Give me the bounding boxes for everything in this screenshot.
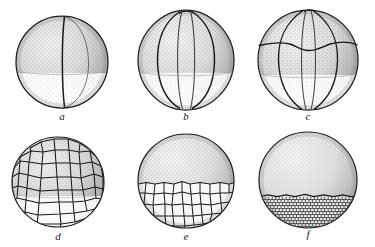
cleavage-stages-plate: a: [0, 0, 375, 247]
figure-e-blastula-coarse: [124, 124, 250, 247]
panel-d: d: [0, 124, 125, 247]
panel-f: f: [250, 124, 375, 247]
panel-a: a: [0, 0, 125, 125]
panel-label-e: e: [166, 230, 206, 242]
panel-label-a: a: [42, 110, 82, 122]
panel-e: e: [124, 124, 250, 247]
figure-a-two-cell-embryo: [0, 0, 125, 125]
figure-b-four-cell-embryo: [124, 0, 250, 125]
panel-label-d: d: [38, 230, 78, 242]
panel-label-b: b: [166, 110, 206, 122]
figure-d-morula: [0, 124, 125, 247]
panel-label-f: f: [288, 228, 328, 240]
panel-label-c: c: [288, 110, 328, 122]
panel-b: b: [124, 0, 250, 125]
panel-c: c: [250, 0, 375, 125]
figure-c-eight-cell-embryo: [250, 0, 375, 125]
